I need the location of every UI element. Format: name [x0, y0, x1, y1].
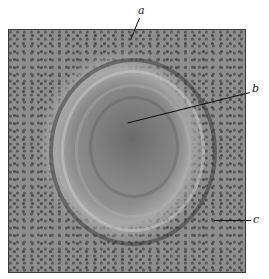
label-b: b [252, 82, 259, 95]
label-a: a [138, 4, 145, 17]
label-c: c [253, 213, 259, 226]
leader-line-c [214, 220, 251, 221]
micrograph-image [8, 29, 246, 273]
core-ring [89, 96, 179, 198]
